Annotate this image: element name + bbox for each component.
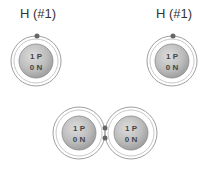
nucleus-left [62,116,96,150]
h2-molecule: 1 P 0 N 1 P 0 N [53,107,157,159]
proton-count-left: 1 P [73,124,86,133]
shared-electron-bottom [103,136,108,141]
hydrogen-bond-diagram: 1 P 0 N 1 P 0 N 1 P 0 N 1 P 0 N [0,0,210,177]
nucleus [19,44,53,78]
electron [35,34,40,39]
neutron-count: 0 N [30,63,43,72]
shared-electron-top [103,126,108,131]
hydrogen-atom-left: 1 P 0 N [11,34,61,87]
proton-count: 1 P [30,52,43,61]
proton-count: 1 P [166,52,179,61]
nucleus-right [114,116,148,150]
proton-count-right: 1 P [125,124,138,133]
neutron-count-right: 0 N [125,135,138,144]
neutron-count-left: 0 N [73,135,86,144]
neutron-count: 0 N [166,63,179,72]
hydrogen-atom-right: 1 P 0 N [147,34,197,87]
nucleus [155,44,189,78]
electron [171,34,176,39]
